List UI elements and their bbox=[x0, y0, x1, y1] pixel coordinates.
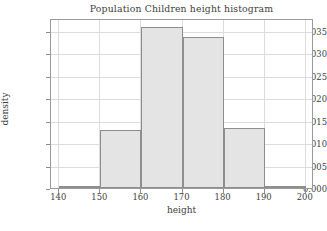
x-tick-label: 190 bbox=[247, 192, 281, 202]
x-tick-label: 160 bbox=[123, 192, 157, 202]
x-tick-label: 180 bbox=[206, 192, 240, 202]
histogram-bar bbox=[265, 186, 306, 188]
y-tick-mark bbox=[46, 99, 50, 100]
y-tick-mark bbox=[46, 144, 50, 145]
histogram-bar bbox=[183, 37, 224, 188]
x-tick-label: 200 bbox=[288, 192, 322, 202]
histogram-bar bbox=[224, 128, 265, 188]
x-tick-mark bbox=[223, 189, 224, 193]
histogram-bar bbox=[141, 27, 182, 188]
y-tick-mark bbox=[46, 77, 50, 78]
chart-title: Population Children height histogram bbox=[50, 3, 313, 14]
y-tick-mark bbox=[46, 122, 50, 123]
x-tick-mark bbox=[264, 189, 265, 193]
y-tick-mark bbox=[46, 32, 50, 33]
x-tick-mark bbox=[305, 189, 306, 193]
x-tick-label: 170 bbox=[165, 192, 199, 202]
histogram-bar bbox=[59, 186, 100, 188]
gridline-vertical bbox=[58, 20, 59, 188]
gridline-vertical bbox=[305, 20, 306, 188]
x-tick-mark bbox=[58, 189, 59, 193]
x-tick-mark bbox=[99, 189, 100, 193]
x-tick-label: 150 bbox=[82, 192, 116, 202]
histogram-bar bbox=[100, 130, 141, 188]
histogram-figure: Population Children height histogram den… bbox=[0, 0, 327, 231]
y-axis-label: density bbox=[0, 69, 10, 149]
x-tick-mark bbox=[182, 189, 183, 193]
plot-area bbox=[50, 19, 313, 189]
x-tick-label: 140 bbox=[41, 192, 75, 202]
y-tick-mark bbox=[46, 167, 50, 168]
y-tick-mark bbox=[46, 189, 50, 190]
y-tick-mark bbox=[46, 54, 50, 55]
x-axis-label: height bbox=[50, 205, 313, 215]
x-tick-mark bbox=[140, 189, 141, 193]
